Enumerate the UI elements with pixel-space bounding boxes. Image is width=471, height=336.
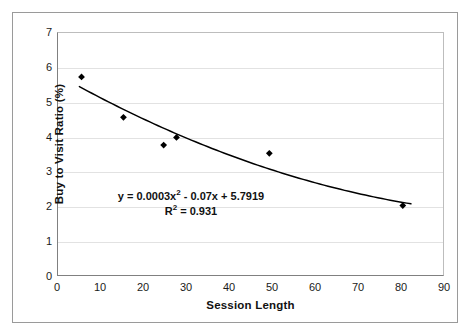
y-tick-label: 4	[26, 131, 52, 142]
equation-prefix: y = 0.0003x	[118, 190, 176, 202]
data-point-marker	[78, 74, 85, 81]
r-squared-prefix: R	[165, 205, 173, 217]
x-tick-label: 0	[42, 280, 72, 294]
equation-line: y = 0.0003x2 - 0.07x + 5.7919	[96, 189, 286, 204]
r-squared-suffix: = 0.931	[177, 205, 217, 217]
x-tick-label: 70	[343, 280, 373, 294]
y-tick-label: 3	[26, 166, 52, 177]
x-tick-label: 60	[300, 280, 330, 294]
y-tick-label: 2	[26, 201, 52, 212]
x-tick-label: 50	[257, 280, 287, 294]
y-tick-label: 6	[26, 61, 52, 72]
data-point-marker	[160, 142, 167, 149]
x-tick-label: 80	[386, 280, 416, 294]
chart-figure: 01234567 0102030405060708090 Session Len…	[0, 0, 471, 336]
x-tick-label: 10	[85, 280, 115, 294]
y-axis-title: Buy to Visit Ratio (%)	[53, 44, 65, 244]
y-axis-tick-labels: 01234567	[20, 32, 52, 276]
data-point-marker	[120, 114, 127, 121]
trendline	[79, 87, 411, 204]
x-axis-tick-labels: 0102030405060708090	[57, 280, 444, 296]
r-squared-line: R2 = 0.931	[96, 204, 286, 219]
x-tick-label: 40	[214, 280, 244, 294]
y-tick-label: 7	[26, 27, 52, 38]
y-tick-label: 1	[26, 236, 52, 247]
y-tick-label: 5	[26, 96, 52, 107]
x-tick-label: 30	[171, 280, 201, 294]
plot-svg	[58, 33, 443, 275]
x-tick-label: 20	[128, 280, 158, 294]
trendline-equation-annotation: y = 0.0003x2 - 0.07x + 5.7919 R2 = 0.931	[96, 189, 286, 219]
equation-suffix: - 0.07x + 5.7919	[181, 190, 264, 202]
x-tick-label: 90	[429, 280, 459, 294]
data-point-marker	[266, 150, 273, 157]
x-axis-title: Session Length	[57, 299, 444, 311]
plot-area	[57, 32, 444, 276]
